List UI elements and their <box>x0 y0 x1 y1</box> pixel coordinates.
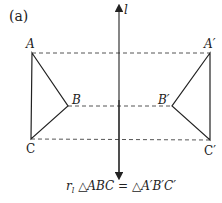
label-c: C <box>26 142 35 156</box>
caption-text: △ABC = △A′B′C′ <box>74 179 176 193</box>
panel-label: (a) <box>9 8 28 24</box>
caption: rl △ABC = △A′B′C′ <box>66 179 176 195</box>
label-a-prime: A′ <box>203 37 216 51</box>
reflection-diagram: (a) l A B C A′ B′ C′ rl △ABC = △A′B′C′ <box>0 0 222 203</box>
axis-label: l <box>124 3 128 17</box>
dashed-line-c <box>31 139 210 140</box>
label-c-prime: C′ <box>204 144 216 158</box>
label-b-prime: B′ <box>157 93 170 107</box>
triangle-abc <box>31 53 68 139</box>
label-b: B <box>71 93 81 107</box>
label-a: A <box>25 37 35 51</box>
triangle-a-prime-b-prime-c-prime <box>172 53 210 140</box>
